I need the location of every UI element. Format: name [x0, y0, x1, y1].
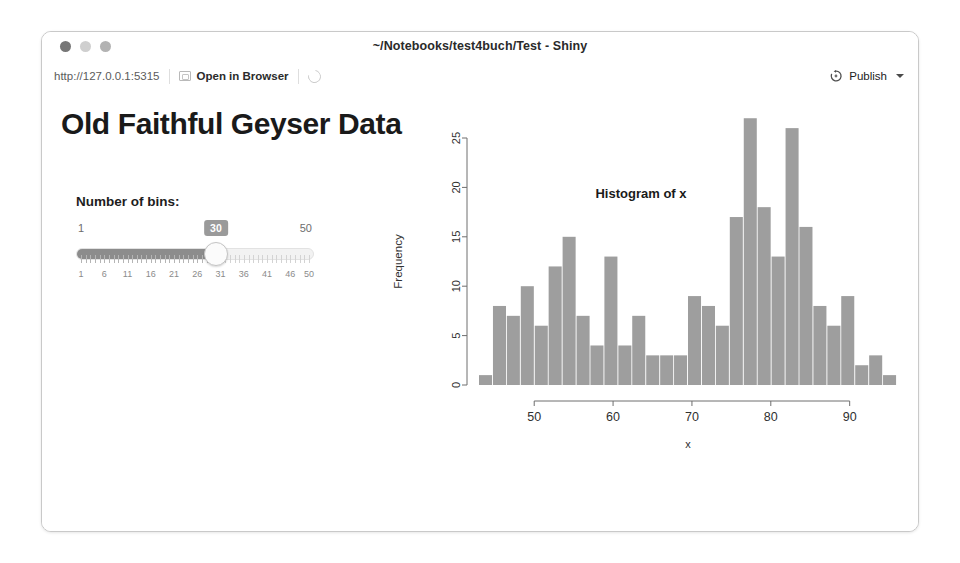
y-axis-tick-label: 20: [450, 181, 462, 193]
slider-tick: [230, 255, 231, 263]
slider-tick: [118, 255, 119, 263]
histogram-bar: [716, 326, 729, 385]
histogram-bar: [604, 257, 617, 385]
histogram-bar: [813, 306, 826, 385]
window-titlebar: ~/Notebooks/test4buch/Test - Shiny: [42, 32, 918, 62]
open-in-browser-label: Open in Browser: [197, 70, 289, 82]
histogram-bar: [758, 207, 771, 385]
slider-tick: [81, 255, 82, 263]
slider-tick: [86, 255, 87, 263]
slider-tick: [188, 255, 189, 263]
slider-tick: [272, 255, 273, 263]
slider-tick: [235, 255, 236, 263]
slider-tick: [151, 255, 152, 263]
slider-tick: [183, 255, 184, 263]
histogram-bar: [493, 306, 506, 385]
slider-tick-label: 6: [102, 269, 107, 279]
external-window-icon: [179, 71, 191, 81]
slider-tick: [295, 255, 296, 263]
slider-tick: [244, 255, 245, 263]
chart-canvas: 05101520255060708090xFrequency: [362, 90, 919, 531]
slider-tick-label: 41: [262, 269, 272, 279]
histogram-bar: [577, 316, 590, 385]
histogram-bar: [590, 345, 603, 385]
slider-max-label: 50: [300, 222, 312, 234]
slider-tick-marks: [76, 255, 314, 263]
x-axis-tick-label: 50: [527, 410, 541, 424]
histogram-bar: [507, 316, 520, 385]
slider-tick: [300, 255, 301, 263]
histogram-bar: [744, 118, 757, 385]
app-url-label[interactable]: http://127.0.0.1:5315: [54, 70, 160, 82]
slider-tick: [123, 255, 124, 263]
slider-tick: [174, 255, 175, 263]
histogram-bar: [549, 266, 562, 385]
histogram-bar: [702, 306, 715, 385]
x-axis-tick-label: 80: [764, 410, 778, 424]
publish-label: Publish: [849, 70, 887, 82]
y-axis-tick-label: 10: [450, 280, 462, 292]
open-in-browser-button[interactable]: Open in Browser: [179, 70, 289, 82]
histogram-plot: Histogram of x 05101520255060708090xFreq…: [362, 90, 919, 531]
slider-tick-label: 1: [78, 269, 83, 279]
slider-tick-label: 16: [146, 269, 156, 279]
slider-tick: [239, 255, 240, 263]
slider-tick: [262, 255, 263, 263]
slider-tick: [202, 255, 203, 263]
histogram-bar: [799, 227, 812, 385]
slider-tick-labels: 16111621263136414650: [76, 269, 314, 283]
slider-tick: [160, 255, 161, 263]
slider-tick-label: 21: [169, 269, 179, 279]
slider-tick: [90, 255, 91, 263]
refresh-icon[interactable]: [305, 67, 323, 85]
slider-tick: [132, 255, 133, 263]
slider-tick: [276, 255, 277, 263]
histogram-bar: [535, 326, 548, 385]
slider-handle[interactable]: [204, 242, 228, 266]
slider-tick: [290, 255, 291, 263]
slider-tick-label: 31: [216, 269, 226, 279]
slider-tick: [146, 255, 147, 263]
histogram-bar: [786, 128, 799, 385]
x-axis-title: x: [685, 438, 691, 450]
histogram-bar: [521, 286, 534, 385]
y-axis-tick-label: 5: [450, 333, 462, 339]
histogram-bar: [883, 375, 896, 385]
slider-tick-label: 26: [192, 269, 202, 279]
slider-tick: [114, 255, 115, 263]
slider-tick: [169, 255, 170, 263]
chevron-down-icon[interactable]: [896, 74, 904, 78]
histogram-bar: [772, 257, 785, 385]
slider-tick: [104, 255, 105, 263]
slider-tick: [309, 255, 310, 263]
slider-tick: [179, 255, 180, 263]
histogram-bar: [632, 316, 645, 385]
slider-tick: [249, 255, 250, 263]
slider-tick: [109, 255, 110, 263]
histogram-bar: [479, 375, 492, 385]
histogram-bar: [660, 355, 673, 385]
slider-tick-label: 11: [123, 269, 132, 279]
page-title: Old Faithful Geyser Data: [61, 107, 401, 141]
window-title: ~/Notebooks/test4buch/Test - Shiny: [42, 39, 918, 53]
histogram-bar: [618, 345, 631, 385]
x-axis-tick-label: 70: [685, 410, 699, 424]
publish-icon: [829, 69, 843, 83]
histogram-bar: [563, 237, 576, 385]
y-axis-title: Frequency: [392, 234, 404, 289]
toolbar-divider-1: [169, 69, 170, 84]
slider-value-badge: 30: [204, 220, 228, 236]
bins-slider-label: Number of bins:: [76, 194, 326, 209]
slider-tick: [95, 255, 96, 263]
slider-tick: [193, 255, 194, 263]
histogram-bar: [869, 355, 882, 385]
slider-tick: [253, 255, 254, 263]
y-axis-tick-label: 0: [450, 382, 462, 388]
histogram-bar: [646, 355, 659, 385]
slider-tick: [137, 255, 138, 263]
publish-button[interactable]: Publish: [829, 69, 904, 83]
slider-tick-label: 46: [285, 269, 295, 279]
slider-tick: [100, 255, 101, 263]
x-axis-tick-label: 60: [606, 410, 620, 424]
toolbar-right-group: Publish: [829, 69, 904, 83]
